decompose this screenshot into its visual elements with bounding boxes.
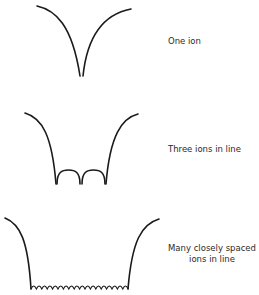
many-ions-label-line2: ions in line	[166, 254, 258, 265]
many-ions-label: Many closely spaced ions in line	[166, 243, 258, 265]
three-ions-label: Three ions in line	[168, 144, 241, 155]
many-ions-potential-curve	[5, 218, 159, 289]
one-ion-potential-curve	[37, 6, 131, 76]
one-ion-label: One ion	[168, 36, 201, 47]
many-ions-label-line1: Many closely spaced	[166, 243, 258, 254]
three-ions-potential-curve	[25, 113, 138, 184]
